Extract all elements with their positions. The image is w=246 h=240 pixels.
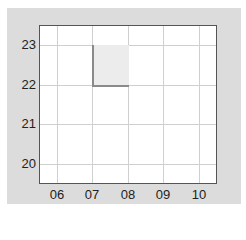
x-tick-label: 06: [42, 188, 72, 202]
y-tick-label: 23: [14, 38, 36, 52]
x-tick-label: 09: [148, 188, 178, 202]
y-tick-label: 21: [14, 117, 36, 131]
grid-line-y-21: [40, 124, 216, 125]
y-tick-label: 22: [14, 78, 36, 92]
x-tick-label: 07: [77, 188, 107, 202]
y-tick-label: 20: [14, 157, 36, 171]
grid-line-y-20: [40, 164, 216, 165]
highlighted-cell: [92, 45, 129, 87]
grid-line-x-09: [163, 26, 164, 183]
grid-line-x-10: [199, 26, 200, 183]
x-tick-label: 08: [113, 188, 143, 202]
plot-area: [39, 25, 217, 184]
x-tick-label: 10: [184, 188, 214, 202]
grid-line-x-06: [57, 26, 58, 183]
